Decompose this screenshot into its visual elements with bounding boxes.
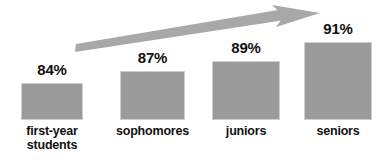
bar-chart: 84% first-year students 87% sophomores 8… xyxy=(0,0,390,168)
bar-label-sophomores: sophomores xyxy=(105,124,200,138)
bar-label-juniors: juniors xyxy=(206,124,286,138)
bar-juniors xyxy=(212,61,280,120)
bar-seniors xyxy=(304,42,372,120)
bar-value-juniors: 89% xyxy=(212,39,280,56)
bar-label-seniors: seniors xyxy=(298,124,378,138)
bar-value-first-year-students: 84% xyxy=(21,61,83,78)
bar-sophomores xyxy=(120,71,185,120)
plot-area: 84% first-year students 87% sophomores 8… xyxy=(0,0,390,168)
bar-value-seniors: 91% xyxy=(304,20,372,37)
bar-first-year-students xyxy=(21,83,83,120)
bar-label-first-year-students: first-year students xyxy=(6,124,98,152)
bar-value-sophomores: 87% xyxy=(120,49,185,66)
